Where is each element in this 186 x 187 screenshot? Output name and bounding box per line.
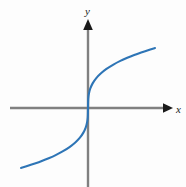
y-axis-label: y — [85, 6, 90, 17]
x-axis-label: x — [176, 104, 181, 115]
x-axis-arrow-icon — [163, 103, 173, 113]
y-axis-arrow-icon — [83, 19, 93, 30]
cube-root-plot — [0, 0, 186, 187]
graph-figure: y x — [0, 0, 186, 187]
